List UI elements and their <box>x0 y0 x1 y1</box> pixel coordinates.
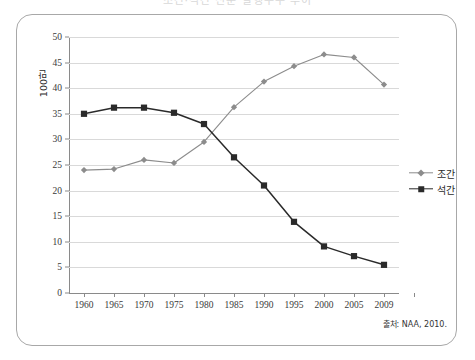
y-tick-label: 30 <box>53 134 63 144</box>
data-point <box>291 219 297 225</box>
x-tick-mark <box>84 293 85 297</box>
x-tick-mark <box>114 293 115 297</box>
y-tick-label: 25 <box>53 160 63 170</box>
x-tick-mark <box>144 293 145 297</box>
legend-swatch-icon <box>409 183 433 195</box>
x-tick-label: 1970 <box>135 300 154 310</box>
legend-item-조간[interactable]: 조간 <box>409 165 455 181</box>
data-point <box>81 111 87 117</box>
legend-label: 석간 <box>437 182 455 197</box>
x-tick-label: 1995 <box>285 300 304 310</box>
x-tick-label: 1980 <box>195 300 214 310</box>
data-point <box>261 182 267 188</box>
data-point <box>81 167 87 173</box>
y-tick-label: 0 <box>57 288 62 298</box>
x-tick-mark <box>324 293 325 297</box>
y-tick-label: 20 <box>53 186 63 196</box>
legend-label: 조간 <box>437 166 455 181</box>
x-tick-mark <box>294 293 295 297</box>
y-tick-label: 35 <box>53 109 63 119</box>
y-tick-label: 50 <box>53 32 63 42</box>
plot-area: 05101520253035404550 1960196519701975198… <box>69 37 399 293</box>
data-point <box>141 105 147 111</box>
series-line-석간 <box>84 108 384 265</box>
data-point <box>321 243 327 249</box>
data-point <box>231 154 237 160</box>
x-tick-label: 2005 <box>345 300 364 310</box>
x-tick-label: 1975 <box>165 300 184 310</box>
y-axis-title: 100만 <box>37 69 51 97</box>
x-tick-mark <box>354 293 355 297</box>
data-point <box>351 253 357 259</box>
data-point <box>111 166 117 172</box>
x-tick-label: 1965 <box>105 300 124 310</box>
chart-frame: 100만 05101520253035404550 19601965197019… <box>16 14 457 346</box>
data-point <box>111 105 117 111</box>
data-point <box>291 63 297 69</box>
x-tick-mark <box>264 293 265 297</box>
y-tick-label: 10 <box>53 237 63 247</box>
series-plot <box>69 37 399 293</box>
page-title: 조간·석간 신문 발행부수 추이 <box>0 0 475 7</box>
page-title-strip: 조간·석간 신문 발행부수 추이 <box>0 0 475 14</box>
x-tick-mark <box>384 293 385 297</box>
x-tick-label: 2009 <box>375 300 394 310</box>
series-line-조간 <box>84 54 384 170</box>
data-point <box>201 121 207 127</box>
legend-item-석간[interactable]: 석간 <box>409 181 455 197</box>
x-tick-mark <box>414 293 415 297</box>
x-tick-label: 1985 <box>225 300 244 310</box>
x-tick-mark <box>204 293 205 297</box>
x-tick-label: 1990 <box>255 300 274 310</box>
y-tick-label: 5 <box>57 262 62 272</box>
y-tick-label: 45 <box>53 58 63 68</box>
data-point <box>171 110 177 116</box>
x-tick-mark <box>174 293 175 297</box>
data-point <box>381 262 387 268</box>
data-point <box>321 51 327 57</box>
x-tick-mark <box>234 293 235 297</box>
x-tick-label: 2000 <box>315 300 334 310</box>
source-note: 출처: NAA, 2010. <box>317 318 447 329</box>
legend-swatch-icon <box>409 167 433 179</box>
x-tick-label: 1960 <box>75 300 94 310</box>
data-point <box>141 157 147 163</box>
y-tick-label: 40 <box>53 83 63 93</box>
chart-legend: 조간석간 <box>409 165 455 197</box>
y-tick-label: 15 <box>53 211 63 221</box>
